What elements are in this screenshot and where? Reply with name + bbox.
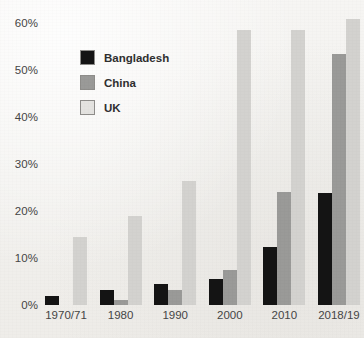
bar-china [277,192,291,305]
y-axis: 0%10%20%30%40%50%60% [0,0,45,338]
bar-uk [73,237,87,305]
bar-bangladesh [209,279,223,305]
bar-bangladesh [318,193,332,305]
bar-uk [291,30,305,305]
chart-legend: BangladeshChinaUK [80,47,169,122]
bar-uk [182,181,196,305]
y-axis-tick-label: 60% [15,17,38,29]
x-axis-tick-label: 2010 [263,309,305,335]
x-axis-tick-label: 2018/19 [318,309,360,335]
y-axis-tick-label: 0% [21,299,38,311]
legend-item-bangladesh: Bangladesh [80,47,169,68]
y-axis-tick-label: 50% [15,64,38,76]
x-axis: 1970/7119801990200020102018/19 [45,309,360,335]
bar-china [332,54,346,305]
legend-label: UK [104,102,121,114]
legend-label: China [104,77,136,89]
bar-bangladesh [263,247,277,305]
legend-label: Bangladesh [104,52,169,64]
legend-item-uk: UK [80,97,169,118]
y-axis-tick-label: 20% [15,205,38,217]
legend-item-china: China [80,72,169,93]
x-axis-tick-label: 2000 [209,309,251,335]
bar-uk [346,19,360,305]
bar-bangladesh [45,296,59,305]
bar-bangladesh [100,290,114,305]
x-axis-tick-label: 1980 [100,309,142,335]
bar-uk [237,30,251,305]
legend-swatch-icon [80,75,95,90]
y-axis-tick-label: 30% [15,158,38,170]
x-axis-tick-label: 1990 [154,309,196,335]
bar-group [263,14,305,305]
y-axis-tick-label: 40% [15,111,38,123]
legend-swatch-icon [80,100,95,115]
y-axis-tick-label: 10% [15,252,38,264]
legend-swatch-icon [80,50,95,65]
bar-group [318,14,360,305]
bar-china [114,300,128,305]
x-axis-tick-label: 1970/71 [45,309,87,335]
bar-china [168,290,182,305]
bar-uk [128,216,142,305]
bar-chart: 0%10%20%30%40%50%60% 1970/71198019902000… [0,0,364,338]
bar-bangladesh [154,284,168,305]
bar-china [223,270,237,305]
bar-group [209,14,251,305]
